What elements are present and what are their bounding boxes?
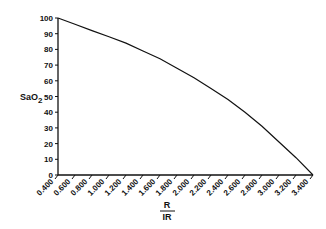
x-tick-label: 2.200 [188,177,209,198]
y-tick-label: 100 [40,14,54,23]
y-tick-label: 70 [44,61,53,70]
y-tick-label: 30 [44,124,53,133]
x-tick-label: 2.800 [239,177,260,198]
x-tick-label: 1.200 [103,177,124,198]
y-tick-label: 10 [44,155,53,164]
data-line [58,18,313,175]
x-tick-label: 0.600 [52,177,73,198]
x-tick-label: 1.800 [154,177,175,198]
x-tick-label: 1.400 [120,177,141,198]
x-tick-label: 3.000 [256,177,277,198]
x-tick-label: 1.000 [86,177,107,198]
x-tick-label: 2.600 [222,177,243,198]
x-tick-label: 3.200 [273,177,294,198]
y-tick-label: 40 [44,108,53,117]
x-tick-label: 2.000 [171,177,192,198]
x-tick-label: 2.400 [205,177,226,198]
chart: 0102030405060708090100 0.4000.6000.8001.… [0,0,326,229]
x-axis-label-denominator: IR [163,212,173,222]
x-tick-label: 3.400 [290,177,311,198]
x-tick-label: 1.600 [137,177,158,198]
y-tick-label: 20 [44,140,53,149]
x-axis: 0.4000.6000.8001.0001.2001.4001.6001.800… [35,175,313,198]
x-axis-label-numerator: R [164,200,171,210]
y-tick-label: 50 [44,93,53,102]
y-tick-label: 60 [44,77,53,86]
y-axis-label: SaO2 [20,92,43,105]
y-tick-label: 90 [44,30,53,39]
x-tick-label: 0.800 [69,177,90,198]
y-tick-label: 80 [44,45,53,54]
